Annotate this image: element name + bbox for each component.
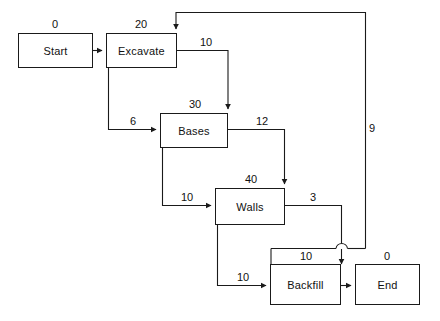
duration-end: 0 bbox=[384, 250, 390, 262]
duration-start: 0 bbox=[52, 18, 58, 30]
node-backfill-label: Backfill bbox=[287, 279, 323, 291]
node-end[interactable]: End bbox=[355, 264, 420, 305]
duration-backfill: 10 bbox=[300, 250, 312, 262]
node-bases-label: Bases bbox=[178, 125, 210, 137]
duration-walls: 40 bbox=[245, 173, 257, 185]
node-end-label: End bbox=[377, 279, 397, 291]
node-start[interactable]: Start bbox=[18, 33, 93, 68]
network-diagram-canvas: Start 0 Excavate 20 Bases 30 Walls 40 Ba… bbox=[0, 0, 440, 321]
edge-label-backfill-excavate-9: 9 bbox=[369, 122, 375, 134]
node-excavate[interactable]: Excavate bbox=[106, 33, 177, 68]
node-excavate-label: Excavate bbox=[118, 45, 165, 57]
node-start-label: Start bbox=[43, 45, 67, 57]
node-walls-label: Walls bbox=[236, 201, 263, 213]
edge-label-walls-backfill-10: 10 bbox=[237, 271, 249, 283]
edge-wire-hop-arc bbox=[336, 243, 348, 248]
node-backfill[interactable]: Backfill bbox=[270, 264, 341, 305]
duration-bases: 30 bbox=[189, 98, 201, 110]
edge-label-bases-walls-10: 10 bbox=[181, 191, 193, 203]
edge-label-walls-backfill-3: 3 bbox=[310, 191, 316, 203]
duration-excavate: 20 bbox=[135, 18, 147, 30]
node-bases[interactable]: Bases bbox=[160, 113, 228, 148]
edge-excavate-bases-10 bbox=[177, 51, 228, 110]
edge-label-excavate-bases-10: 10 bbox=[200, 36, 212, 48]
edge-label-excavate-bases-6: 6 bbox=[130, 115, 136, 127]
edge-walls-backfill-3 bbox=[285, 206, 342, 244]
node-walls[interactable]: Walls bbox=[215, 188, 285, 225]
edge-label-bases-walls-12: 12 bbox=[256, 115, 268, 127]
